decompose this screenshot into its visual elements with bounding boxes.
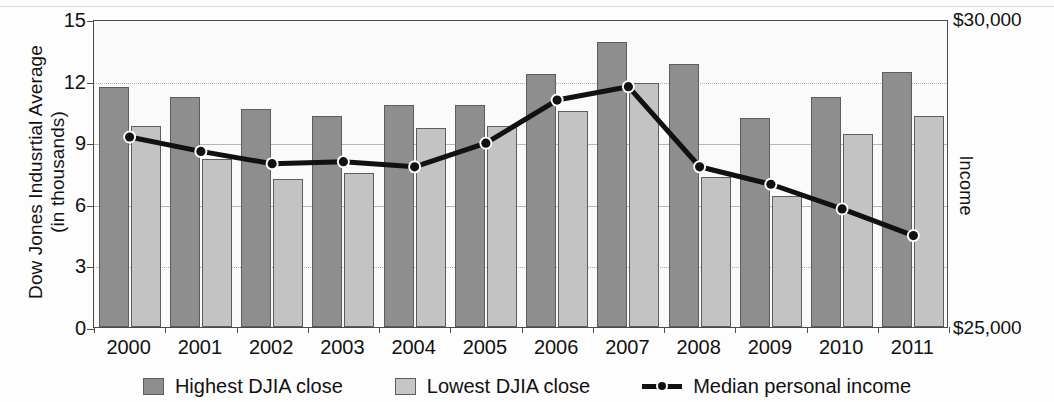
income-marker-2003 xyxy=(339,157,348,166)
y-tick-label-left: 3 xyxy=(75,255,86,278)
income-line-path xyxy=(130,87,914,236)
y-tick-label-right: $30,000 xyxy=(953,9,1022,31)
income-marker-2001 xyxy=(196,147,205,156)
legend-swatch-icon xyxy=(395,378,416,395)
line-series-layer xyxy=(94,21,949,329)
x-tickmark xyxy=(308,327,309,333)
income-marker-2000 xyxy=(125,132,134,141)
y-tickmark-left xyxy=(87,329,94,330)
y-tickmark-left xyxy=(87,144,94,145)
scan-artifact-line xyxy=(0,6,1054,7)
plot-area xyxy=(93,20,948,328)
legend-item-3: Median personal income xyxy=(642,375,911,398)
x-tick-label-2000: 2000 xyxy=(106,336,151,359)
y-tick-label-left: 15 xyxy=(64,9,86,32)
legend-line-marker-icon xyxy=(642,379,682,393)
chart-figure: Dow Jones Indusrtial Average (in thousan… xyxy=(0,0,1054,402)
x-tick-label-2004: 2004 xyxy=(391,336,436,359)
x-tick-label-2003: 2003 xyxy=(320,336,365,359)
x-tickmark xyxy=(664,327,665,333)
income-marker-2010 xyxy=(838,204,847,213)
income-marker-2008 xyxy=(695,162,704,171)
legend-item-label: Median personal income xyxy=(693,375,911,398)
income-marker-2007 xyxy=(624,82,633,91)
x-tickmark xyxy=(379,327,380,333)
x-tickmark xyxy=(165,327,166,333)
x-tick-label-2010: 2010 xyxy=(819,336,864,359)
x-tick-label-2011: 2011 xyxy=(891,336,934,359)
y-axis-left: 03691215 xyxy=(38,0,86,402)
x-tickmark xyxy=(878,327,879,333)
y-tick-label-left: 12 xyxy=(64,70,86,93)
x-tickmark xyxy=(450,327,451,333)
x-tick-label-2008: 2008 xyxy=(676,336,721,359)
income-marker-2011 xyxy=(909,231,918,240)
income-marker-2009 xyxy=(766,180,775,189)
y-tickmark-left xyxy=(87,21,94,22)
x-tickmark xyxy=(807,327,808,333)
x-tickmark xyxy=(522,327,523,333)
income-marker-2006 xyxy=(553,95,562,104)
x-tick-label-2002: 2002 xyxy=(249,336,294,359)
legend: Highest DJIA closeLowest DJIA closeMedia… xyxy=(0,370,1054,402)
x-tickmark xyxy=(949,327,950,333)
legend-item-label: Highest DJIA close xyxy=(175,375,343,398)
legend-item-label: Lowest DJIA close xyxy=(427,375,590,398)
x-tick-label-2007: 2007 xyxy=(605,336,650,359)
legend-item-1: Highest DJIA close xyxy=(143,375,343,398)
x-tickmark xyxy=(735,327,736,333)
x-tickmark xyxy=(94,327,95,333)
y-tick-label-left: 6 xyxy=(75,193,86,216)
legend-swatch-icon xyxy=(143,378,164,395)
income-marker-2005 xyxy=(481,139,490,148)
y-tickmark-left xyxy=(87,206,94,207)
x-tickmark xyxy=(593,327,594,333)
x-tick-label-2009: 2009 xyxy=(748,336,793,359)
x-tick-label-2006: 2006 xyxy=(534,336,579,359)
x-tick-label-2005: 2005 xyxy=(463,336,508,359)
income-marker-2004 xyxy=(410,162,419,171)
legend-item-2: Lowest DJIA close xyxy=(395,375,590,398)
y-axis-right: $25,000$30,000 xyxy=(953,0,1053,402)
y-tick-label-right: $25,000 xyxy=(953,317,1022,339)
y-tickmark-left xyxy=(87,267,94,268)
y-tickmark-left xyxy=(87,83,94,84)
x-tickmark xyxy=(237,327,238,333)
income-marker-2002 xyxy=(268,159,277,168)
y-tick-label-left: 9 xyxy=(75,132,86,155)
x-tick-label-2001: 2001 xyxy=(178,336,223,359)
y-tick-label-left: 0 xyxy=(75,317,86,340)
